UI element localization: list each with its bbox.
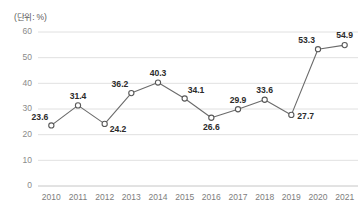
xtick-label-2014: 2014: [149, 192, 168, 202]
data-label-2013: 36.2: [112, 79, 129, 89]
xtick-label-2020: 2020: [309, 192, 328, 202]
xtick-label-2018: 2018: [255, 192, 274, 202]
xtick-labels-group: 2010201120122013201420152016201720182019…: [42, 192, 355, 202]
ytick-label-50: 50: [23, 52, 33, 62]
data-label-2017: 29.9: [230, 95, 247, 105]
line-chart-panel: (단위: %) 0102030405060 201020112012201320…: [0, 0, 363, 217]
chart-plot-area: 0102030405060 20102011201220132014201520…: [0, 0, 363, 217]
data-label-2014: 40.3: [150, 68, 167, 78]
xtick-label-2017: 2017: [229, 192, 248, 202]
data-marker-2016[interactable]: [209, 115, 214, 120]
data-marker-2021[interactable]: [342, 42, 347, 47]
data-marker-2014[interactable]: [155, 80, 160, 85]
ytick-label-20: 20: [23, 129, 33, 139]
xtick-label-2021: 2021: [335, 192, 354, 202]
xtick-label-2010: 2010: [42, 192, 61, 202]
ytick-labels-group: 0102030405060: [23, 26, 33, 190]
data-label-2018: 33.6: [256, 85, 273, 95]
data-label-2019: 27.7: [297, 111, 314, 121]
data-label-2010: 23.6: [32, 112, 49, 122]
ytick-label-60: 60: [23, 26, 33, 36]
data-marker-2020[interactable]: [315, 47, 320, 52]
ytick-label-40: 40: [23, 78, 33, 88]
xtick-label-2015: 2015: [175, 192, 194, 202]
xtick-label-2013: 2013: [122, 192, 141, 202]
data-marker-2017[interactable]: [235, 107, 240, 112]
xtick-label-2016: 2016: [202, 192, 221, 202]
xtick-label-2012: 2012: [95, 192, 114, 202]
ytick-label-10: 10: [23, 155, 33, 165]
data-marker-2012[interactable]: [102, 121, 107, 126]
data-label-2021: 54.9: [336, 30, 353, 40]
data-marker-2013[interactable]: [129, 90, 134, 95]
data-marker-2011[interactable]: [75, 103, 80, 108]
ytick-label-0: 0: [27, 180, 32, 190]
data-marker-2019[interactable]: [289, 112, 294, 117]
gridlines-group: [38, 32, 358, 186]
data-marker-2018[interactable]: [262, 97, 267, 102]
data-label-2015: 34.1: [188, 85, 205, 95]
xtick-label-2011: 2011: [69, 192, 88, 202]
data-label-2016: 26.6: [203, 122, 220, 132]
data-label-2011: 31.4: [70, 91, 87, 101]
data-label-2020: 53.3: [298, 35, 315, 45]
data-label-2012: 24.2: [110, 124, 127, 134]
xtick-label-2019: 2019: [282, 192, 301, 202]
data-marker-2015[interactable]: [182, 96, 187, 101]
data-marker-2010[interactable]: [49, 123, 54, 128]
